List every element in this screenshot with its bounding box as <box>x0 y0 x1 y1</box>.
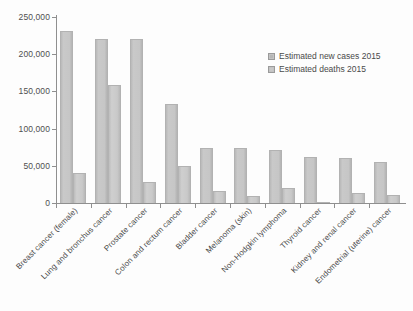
chart-legend: Estimated new cases 2015 Estimated death… <box>268 51 381 77</box>
legend-swatch-deaths <box>268 66 275 73</box>
bar-group <box>195 17 230 203</box>
y-tick-mark <box>52 166 57 167</box>
bar-new-cases <box>339 158 352 203</box>
bar-chart: 050,000100,000150,000200,000250,000 Brea… <box>0 0 413 311</box>
bar-deaths <box>317 202 330 203</box>
legend-label-new-cases: Estimated new cases 2015 <box>279 51 381 61</box>
bar-deaths <box>108 85 121 203</box>
bar-new-cases <box>200 148 213 203</box>
x-axis-category-labels: Breast cancer (female)Lung and bronchus … <box>56 206 404 306</box>
bar-deaths <box>143 182 156 203</box>
y-tick-label: 200,000 <box>19 49 50 59</box>
legend-item-deaths: Estimated deaths 2015 <box>268 64 381 74</box>
bar-new-cases <box>60 31 73 203</box>
bar-new-cases <box>304 157 317 203</box>
bar-new-cases <box>234 148 247 203</box>
bar-deaths <box>247 196 260 203</box>
bar-group <box>300 17 335 203</box>
bar-deaths <box>73 173 86 203</box>
bar-group <box>334 17 369 203</box>
x-axis-label: Non-Hodgkin lymphoma <box>220 206 288 274</box>
bar-groups <box>56 17 404 203</box>
bar-new-cases <box>165 104 178 203</box>
bar-deaths <box>213 191 226 203</box>
y-tick-label: 150,000 <box>19 86 50 96</box>
legend-label-deaths: Estimated deaths 2015 <box>279 64 366 74</box>
bar-group <box>126 17 161 203</box>
y-tick-mark <box>52 91 57 92</box>
bar-group <box>265 17 300 203</box>
bar-new-cases <box>269 150 282 203</box>
bar-new-cases <box>95 39 108 203</box>
bar-new-cases <box>130 39 143 203</box>
bar-group <box>160 17 195 203</box>
bar-group <box>230 17 265 203</box>
y-tick-label: 250,000 <box>19 12 50 22</box>
y-tick-label: 50,000 <box>23 161 50 171</box>
x-axis-label: Kidney and renal cancer <box>289 206 358 275</box>
bar-group <box>56 17 91 203</box>
bar-deaths <box>352 193 365 203</box>
y-tick-mark <box>52 17 57 18</box>
bar-group <box>91 17 126 203</box>
x-axis-label: Lung and bronchus cancer <box>39 206 114 281</box>
y-tick-label: 100,000 <box>19 124 50 134</box>
y-tick-label: 0 <box>45 198 50 208</box>
y-tick-mark <box>52 203 57 204</box>
x-axis-line <box>56 203 406 204</box>
bar-deaths <box>282 188 295 203</box>
bar-new-cases <box>374 162 387 203</box>
x-axis-label: Endometrial (uterine) cancer <box>313 206 393 286</box>
x-axis-label: Colon and rectum cancer <box>113 206 184 277</box>
y-tick-mark <box>52 54 57 55</box>
bar-deaths <box>387 195 400 203</box>
legend-item-new-cases: Estimated new cases 2015 <box>268 51 381 61</box>
y-tick-mark <box>52 129 57 130</box>
bar-group <box>369 17 404 203</box>
bar-deaths <box>178 166 191 203</box>
legend-swatch-new-cases <box>268 53 275 60</box>
